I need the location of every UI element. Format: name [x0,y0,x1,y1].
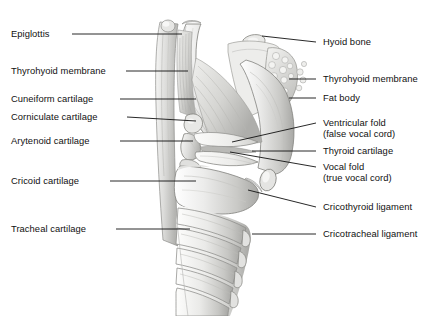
label-text-corniculate-cartilage: Corniculate cartilage [11,111,98,122]
label-text-thyrohyoid-membrane-l: Thyrohyoid membrane [11,65,106,76]
label-epiglottis: Epiglottis [11,28,50,40]
label-corniculate-cartilage: Corniculate cartilage [11,111,98,123]
label-subtext-ventricular-fold: (false vocal cord) [323,128,395,139]
label-text-arytenoid-cartilage: Arytenoid cartilage [11,135,90,146]
label-cricothyroid-ligament: Cricothyroid ligament [323,201,412,213]
label-tracheal-cartilage: Tracheal cartilage [11,223,86,235]
label-ventricular-fold: Ventricular fold [323,117,386,129]
label-text-epiglottis: Epiglottis [11,28,50,39]
label-thyroid-cartilage: Thyroid cartilage [323,145,393,157]
label-text-thyrohyoid-membrane-r: Thyrohyoid membrane [323,73,418,84]
label-text-hyoid-bone: Hyoid bone [323,36,371,47]
label-vocal-fold-sub: (true vocal cord) [323,172,392,184]
larynx-anatomy-figure: EpiglottisThyrohyoid membraneCuneiform c… [0,0,448,316]
label-text-vocal-fold: Vocal fold [323,161,364,172]
larynx-sagittal-illustration [0,0,448,316]
label-text-cricoid-cartilage: Cricoid cartilage [11,175,79,186]
label-subtext-vocal-fold: (true vocal cord) [323,172,392,183]
label-thyrohyoid-membrane-l: Thyrohyoid membrane [11,65,106,77]
label-text-thyroid-cartilage: Thyroid cartilage [323,145,393,156]
label-text-tracheal-cartilage: Tracheal cartilage [11,223,86,234]
label-cuneiform-cartilage: Cuneiform cartilage [11,93,93,105]
label-text-cricotracheal-ligament: Cricotracheal ligament [323,228,417,239]
vocal-fold-structure [195,151,258,165]
label-ventricular-fold-sub: (false vocal cord) [323,128,395,140]
label-text-cricothyroid-ligament: Cricothyroid ligament [323,201,412,212]
label-text-ventricular-fold: Ventricular fold [323,117,386,128]
label-cricoid-cartilage: Cricoid cartilage [11,175,79,187]
label-text-cuneiform-cartilage: Cuneiform cartilage [11,93,93,104]
leader-line-hyoid-bone [262,36,316,42]
posterior-wall-group [156,20,178,246]
label-hyoid-bone: Hyoid bone [323,36,371,48]
label-arytenoid-cartilage: Arytenoid cartilage [11,135,90,147]
label-text-fat-body: Fat body [323,92,360,103]
label-thyrohyoid-membrane-r: Thyrohyoid membrane [323,73,418,85]
label-vocal-fold: Vocal fold [323,161,364,173]
cricoid-cartilage-structure [174,165,258,214]
trachea-structure [176,206,251,316]
label-fat-body: Fat body [323,92,360,104]
label-cricotracheal-ligament: Cricotracheal ligament [323,228,417,240]
